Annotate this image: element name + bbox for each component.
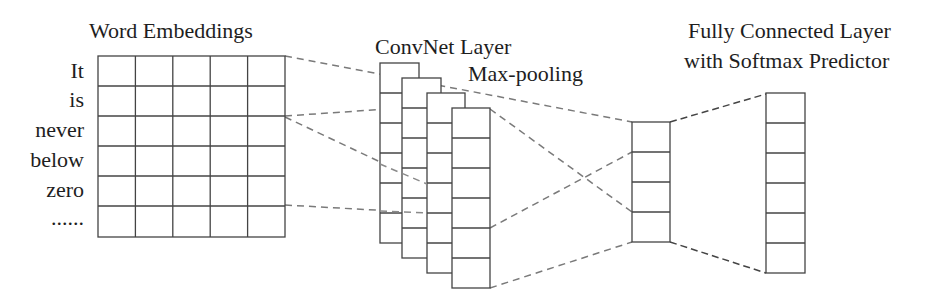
word-label: never: [4, 119, 84, 141]
word-label: is: [4, 89, 84, 111]
conv-filters: [380, 63, 490, 288]
maxpool-vector: [632, 122, 670, 242]
embeddings-title: Word Embeddings: [89, 20, 253, 42]
convnet-title: ConvNet Layer: [375, 36, 511, 58]
word-label: zero: [4, 179, 84, 201]
word-label: below: [4, 149, 84, 171]
fc-title-line2: with Softmax Predictor: [684, 50, 889, 72]
fc-vector: [766, 93, 805, 273]
word-label: It: [4, 60, 84, 82]
fc-title-line1: Fully Connected Layer: [688, 20, 891, 42]
word-label: ......: [4, 207, 84, 229]
maxpool-title: Max-pooling: [468, 63, 583, 85]
embedding-grid: [98, 56, 285, 237]
conv-filter-4: [452, 108, 490, 288]
